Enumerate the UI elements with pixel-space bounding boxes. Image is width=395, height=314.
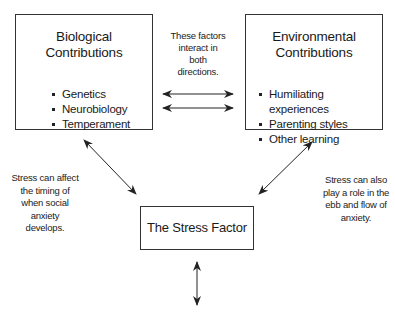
timing-note-line: anxiety — [5, 210, 85, 223]
ebb-flow-note: Stress can also play a role in the ebb a… — [316, 174, 395, 224]
biological-title-line2: Contributions — [16, 45, 152, 61]
list-item: Genetics — [52, 87, 130, 102]
interaction-note-line: These factors — [158, 30, 238, 42]
list-item: Humiliating experiences — [259, 87, 382, 117]
biological-list: Genetics Neurobiology Temperament — [52, 87, 130, 132]
list-item: Parenting styles — [259, 117, 382, 132]
ebb-flow-note-line: ebb and flow of — [316, 199, 395, 212]
timing-note-line: develops. — [5, 222, 85, 235]
biological-title-line1: Biological — [16, 29, 152, 45]
ebb-flow-note-line: Stress can also — [316, 174, 395, 187]
diagonal-arrow-right — [259, 142, 312, 194]
biological-title: Biological Contributions — [16, 29, 152, 61]
environmental-title: Environmental Contributions — [246, 29, 382, 61]
list-item: Other learning — [259, 132, 382, 147]
stress-factor-box: The Stress Factor — [140, 206, 254, 250]
stress-factor-title: The Stress Factor — [141, 207, 253, 249]
ebb-flow-note-line: play a role in the — [316, 187, 395, 200]
interaction-note-line: both — [158, 54, 238, 66]
environmental-title-line2: Contributions — [246, 45, 382, 61]
timing-note-line: Stress can affect — [5, 172, 85, 185]
biological-contributions-box: Biological Contributions Genetics Neurob… — [15, 14, 153, 130]
timing-note-line: when social — [5, 197, 85, 210]
list-item: Neurobiology — [52, 102, 130, 117]
timing-note-line: the timing of — [5, 185, 85, 198]
timing-note: Stress can affect the timing of when soc… — [5, 172, 85, 235]
ebb-flow-note-line: anxiety. — [316, 212, 395, 225]
environmental-contributions-box: Environmental Contributions Humiliating … — [245, 14, 383, 130]
interaction-note-line: interact in — [158, 42, 238, 54]
environmental-list: Humiliating experiences Parenting styles… — [259, 87, 382, 147]
interaction-note: These factors interact in both direction… — [158, 30, 238, 78]
list-item: Temperament — [52, 117, 130, 132]
interaction-note-line: directions. — [158, 66, 238, 78]
environmental-title-line1: Environmental — [246, 29, 382, 45]
diagonal-arrow-left — [84, 140, 136, 194]
